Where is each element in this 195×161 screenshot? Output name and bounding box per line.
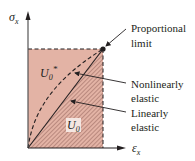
x-axis-label: εx [132, 141, 141, 157]
proportional-limit-point [100, 46, 105, 51]
stress-strain-diagram: σx εx U0* U0 Proportional limit Nonlinea… [0, 0, 195, 161]
y-axis-label: σx [9, 10, 19, 26]
proportional-limit-label: Proportional limit [131, 22, 189, 49]
nonlinear-elastic-label: Nonlinearly elastic [131, 78, 186, 104]
y-axis-arrow-icon [26, 11, 31, 20]
linear-elastic-label: Linearly elastic [131, 107, 171, 133]
proportional-limit-leader [106, 29, 126, 46]
x-axis-arrow-icon [117, 146, 126, 151]
